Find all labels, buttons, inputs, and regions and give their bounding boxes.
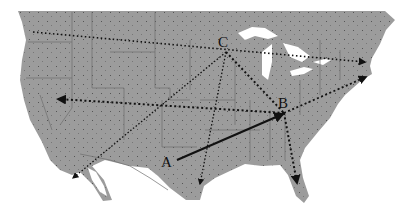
us-map xyxy=(0,0,410,220)
point-label-c: C xyxy=(218,35,228,50)
point-label-b: B xyxy=(278,96,288,111)
point-label-a: A xyxy=(161,155,172,170)
land-mass xyxy=(18,11,395,203)
